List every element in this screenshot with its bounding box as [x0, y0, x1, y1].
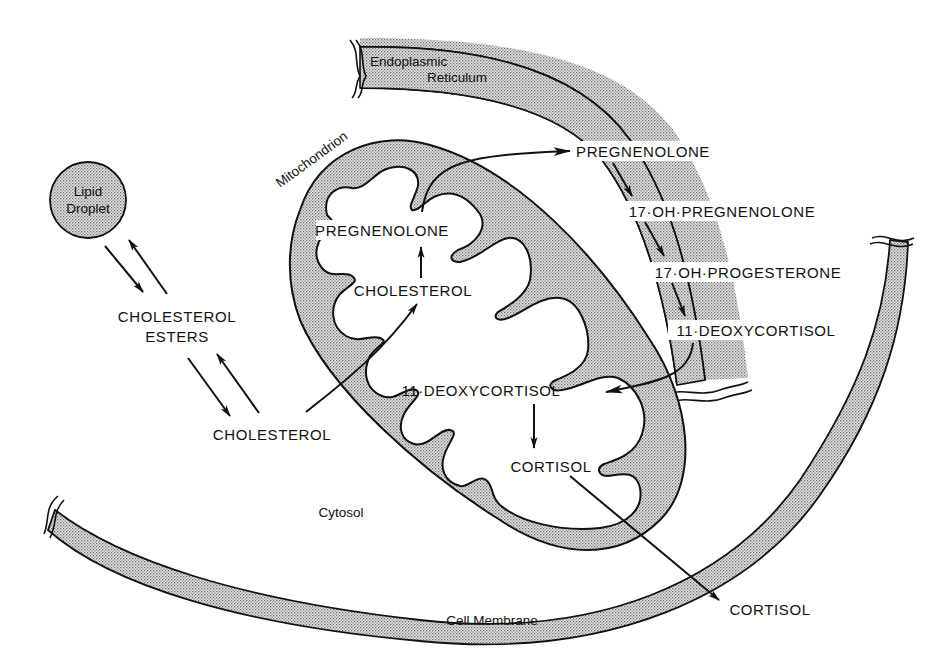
mito-pregnenolone-label: PREGNENOLONE	[315, 222, 449, 239]
mito-deoxycortisol-label: 11·DEOXYCORTISOL	[401, 382, 560, 399]
arrow-cholesterol-to-esters	[217, 354, 259, 413]
cell-membrane-label: Cell Membrane	[446, 613, 538, 628]
lipid-droplet	[50, 162, 126, 238]
mito-cortisol-label: CORTISOL	[510, 458, 591, 475]
arrow-esters-to-cholesterol	[188, 358, 230, 416]
cytosol-cholesterol-label: CHOLESTEROL	[213, 426, 331, 443]
lipid-droplet-label-line2: Droplet	[66, 201, 110, 216]
er-17oh-progesterone-label: 17·OH·PROGESTERONE	[655, 264, 842, 281]
er-pregnenolone-label: PREGNENOLONE	[576, 143, 710, 160]
cytosol-label: Cytosol	[318, 505, 363, 520]
er-17oh-pregnenolone-label: 17·OH·PREGNENOLONE	[629, 203, 816, 220]
er-label-line2: Reticulum	[427, 70, 487, 85]
mito-cholesterol-label: CHOLESTEROL	[354, 282, 472, 299]
lipid-droplet-label-line1: Lipid	[74, 184, 103, 199]
er-label-line1: Endoplasmic	[370, 54, 448, 69]
cholesterol-esters-label-line2: ESTERS	[145, 328, 209, 345]
steroidogenesis-diagram: Lipid Droplet CHOLESTEROL ESTERS CHOLEST…	[0, 0, 950, 664]
cholesterol-esters-label-line1: CHOLESTEROL	[118, 308, 236, 325]
er-deoxycortisol-label: 11·DEOXYCORTISOL	[676, 322, 835, 339]
extracellular-cortisol-label: CORTISOL	[729, 601, 810, 618]
arrow-esters-to-lipid	[129, 240, 167, 294]
